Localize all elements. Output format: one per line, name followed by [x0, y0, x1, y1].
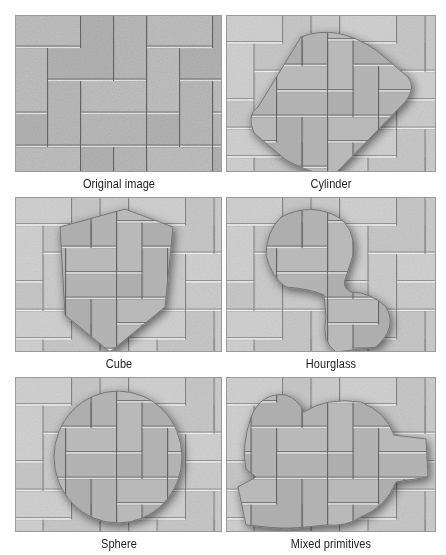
panel-sphere	[15, 377, 222, 532]
brick-texture-original	[15, 15, 222, 172]
caption-sphere: Sphere	[26, 537, 211, 551]
caption-cylinder: Cylinder	[239, 177, 424, 191]
panel-hourglass	[226, 197, 436, 352]
panel-cylinder	[226, 15, 436, 172]
caption-original: Original image	[26, 177, 211, 191]
caption-hourglass: Hourglass	[239, 357, 424, 371]
brick-texture-cube	[15, 197, 222, 352]
panel-mixed-primitives	[226, 377, 436, 532]
brick-texture-mixed	[226, 377, 436, 532]
panel-cube	[15, 197, 222, 352]
caption-mixed-primitives: Mixed primitives	[239, 537, 424, 551]
brick-texture-sphere	[15, 377, 222, 532]
panel-original	[15, 15, 222, 172]
brick-texture-cylinder	[226, 15, 436, 172]
caption-cube: Cube	[26, 357, 211, 371]
brick-texture-hourglass	[226, 197, 436, 352]
